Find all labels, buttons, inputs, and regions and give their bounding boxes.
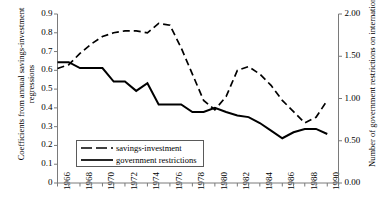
chart-figure: Coefficients from annual savings-investm… — [0, 0, 392, 222]
plot-area — [0, 0, 392, 222]
legend-item-government-restrictions: government restrictions — [80, 154, 197, 166]
series-lines — [58, 23, 328, 138]
chart-legend: savings-investment government restrictio… — [76, 140, 204, 167]
series-savings-investment — [58, 23, 328, 123]
legend-label-savings-investment: savings-investment — [116, 144, 182, 153]
legend-label-government-restrictions: government restrictions — [116, 156, 197, 165]
legend-item-savings-investment: savings-investment — [80, 142, 182, 154]
legend-swatch-dashed — [80, 143, 114, 153]
legend-swatch-solid — [80, 155, 114, 165]
